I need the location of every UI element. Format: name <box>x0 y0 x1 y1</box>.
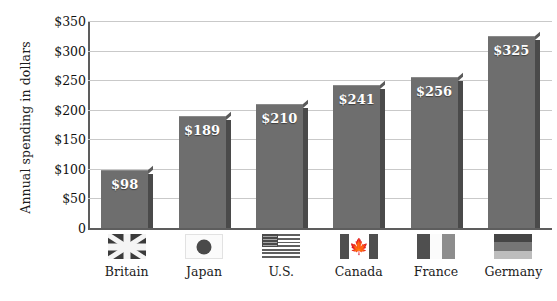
bar-body <box>411 77 458 228</box>
flag-france-icon <box>417 234 455 259</box>
category-us: U.S. <box>243 234 320 279</box>
category-label: Britain <box>88 264 165 279</box>
bar-top-face <box>458 72 463 80</box>
bar[interactable]: $189 <box>179 116 226 228</box>
category-label: U.S. <box>243 264 320 279</box>
category-france: France <box>397 234 474 279</box>
bar-top-face <box>226 112 231 120</box>
bar-top-face <box>148 166 153 174</box>
bar[interactable]: $325 <box>488 36 535 228</box>
category-label: Canada <box>320 264 397 279</box>
bar-value-label: $98 <box>101 177 148 192</box>
bar-value-label: $325 <box>488 43 535 58</box>
x-axis-line <box>88 228 552 230</box>
bar-value-label: $241 <box>333 92 380 107</box>
y-axis-title: Annual spending in dollars <box>18 23 33 233</box>
x-axis-categories: BritainJapanU.S.🍁CanadaFranceGermany <box>88 234 552 296</box>
y-axis-tick-label: 0 <box>36 221 86 236</box>
y-axis-tick-label: $100 <box>36 161 86 176</box>
y-axis-tick-label: $350 <box>36 14 86 29</box>
bar[interactable]: $210 <box>256 104 303 228</box>
plot-area: $98$189$210$241$256$325 <box>88 21 552 228</box>
y-axis-tick-label: $200 <box>36 102 86 117</box>
y-axis-tick-labels: 0$50$100$150$200$250$300$350 <box>36 0 86 240</box>
bar[interactable]: $256 <box>411 77 458 228</box>
bar-body <box>488 36 535 228</box>
category-label: Germany <box>475 264 552 279</box>
y-axis-tick-label: $50 <box>36 191 86 206</box>
bar-top-face <box>303 100 308 108</box>
flag-us-icon <box>262 234 300 259</box>
category-japan: Japan <box>165 234 242 279</box>
bar-value-label: $256 <box>411 84 458 99</box>
bar-side-face <box>380 89 385 228</box>
category-germany: Germany <box>475 234 552 279</box>
category-britain: Britain <box>88 234 165 279</box>
bar-side-face <box>148 174 153 228</box>
bar-chart: Annual spending in dollars 0$50$100$150$… <box>0 0 557 301</box>
y-axis-tick-label: $300 <box>36 43 86 58</box>
bar-side-face <box>535 40 540 228</box>
bar-top-face <box>535 32 540 40</box>
bar-side-face <box>303 108 308 228</box>
flag-japan-icon <box>185 234 223 259</box>
category-label: France <box>397 264 474 279</box>
category-canada: 🍁Canada <box>320 234 397 279</box>
bar-value-label: $189 <box>179 123 226 138</box>
y-axis-tick-label: $250 <box>36 73 86 88</box>
bar-value-label: $210 <box>256 111 303 126</box>
bar-side-face <box>458 81 463 228</box>
category-label: Japan <box>165 264 242 279</box>
flag-britain-icon <box>108 234 146 259</box>
bar[interactable]: $241 <box>333 85 380 228</box>
bar-top-face <box>380 81 385 89</box>
flag-canada-icon: 🍁 <box>340 234 378 259</box>
y-axis-tick-label: $150 <box>36 132 86 147</box>
bar[interactable]: $98 <box>101 170 148 228</box>
flag-germany-icon <box>494 234 532 259</box>
bar-series: $98$189$210$241$256$325 <box>88 21 552 228</box>
bar-side-face <box>226 120 231 228</box>
